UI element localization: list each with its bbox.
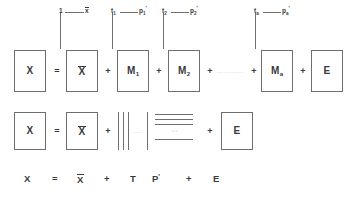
annotation-right-symbol-2: p2′: [190, 8, 198, 15]
row1-box-x: X: [14, 50, 46, 92]
row3-token-plus-1: +: [104, 174, 110, 184]
row1-operator-plus-3: +: [205, 67, 215, 76]
annotation-connector-horizontal-0: [65, 12, 84, 13]
row1-box-xbar: X: [66, 50, 98, 92]
loading-row-1: [155, 114, 193, 115]
score-vector-2: [123, 112, 124, 150]
row2-box-xbar: X: [66, 112, 98, 150]
row2-box-e-label: E: [234, 126, 241, 136]
row1-box-m2: M2: [168, 50, 200, 92]
row2-box-x-label: X: [27, 126, 34, 136]
row2-box-e: E: [221, 112, 253, 150]
row3-token-t: T: [130, 174, 136, 184]
row1-operator-plus-2: +: [154, 67, 164, 76]
loading-row-a: [155, 139, 193, 140]
row2-operator-plus-2: +: [205, 127, 215, 136]
annotation-connector-vertical-0: [60, 13, 61, 49]
annotation-connector-vertical-3: [255, 13, 256, 49]
score-vectors-ellipsis: ····: [133, 130, 143, 136]
row1-box-e: E: [311, 50, 343, 92]
row1-operator-plus-1: +: [103, 67, 113, 76]
row2-box-xbar-label: X: [79, 126, 86, 137]
row1-operator-equals: =: [52, 67, 62, 76]
loading-row-3: [155, 124, 193, 125]
row1-box-m1: M1: [117, 50, 149, 92]
annotation-right-symbol-0: x: [85, 7, 89, 15]
annotation-connector-horizontal-3: [263, 12, 281, 13]
row1-box-e-label: E: [324, 66, 331, 76]
annotation-connector-horizontal-1: [120, 12, 138, 13]
annotation-right-symbol-3: pa′: [282, 8, 290, 15]
annotation-right-symbol-1: p1′: [139, 8, 147, 15]
row1-operator-plus-4: +: [249, 67, 259, 76]
row2-box-x: X: [14, 112, 46, 150]
row2-operator-equals: =: [52, 127, 62, 136]
score-vector-3: [128, 112, 129, 150]
row1-box-xbar-label: X: [79, 66, 86, 77]
loading-rows-ellipsis: ⋮: [172, 128, 178, 134]
row2-operator-plus-1: +: [103, 127, 113, 136]
annotation-connector-vertical-2: [163, 13, 164, 49]
row3-token-p-transpose: P′: [152, 174, 160, 184]
row1-operator-plus-5: +: [298, 67, 308, 76]
loading-row-2: [155, 119, 193, 120]
row1-box-m1-label: M1: [127, 66, 139, 76]
row3-token-x: X: [24, 174, 30, 184]
row1-box-x-label: X: [27, 66, 34, 76]
row3-token-plus-2: +: [186, 174, 192, 184]
score-vector-1: [118, 112, 119, 150]
row1-box-ma-label: Ma: [271, 66, 283, 76]
equation-diagram: 1 x t1 p1′ t2 p2′ ta pa′ X = X + M1 + M2…: [0, 0, 353, 197]
row1-box-ma: Ma: [261, 50, 293, 92]
annotation-connector-vertical-1: [112, 13, 113, 49]
score-vector-a: [147, 112, 148, 150]
row1-box-m2-label: M2: [178, 66, 190, 76]
annotation-connector-horizontal-2: [171, 12, 189, 13]
row3-token-xbar: X: [77, 174, 83, 185]
row3-token-e: E: [213, 174, 219, 184]
row1-ellipsis: ···········: [217, 70, 244, 76]
row3-token-equals: =: [52, 174, 58, 184]
